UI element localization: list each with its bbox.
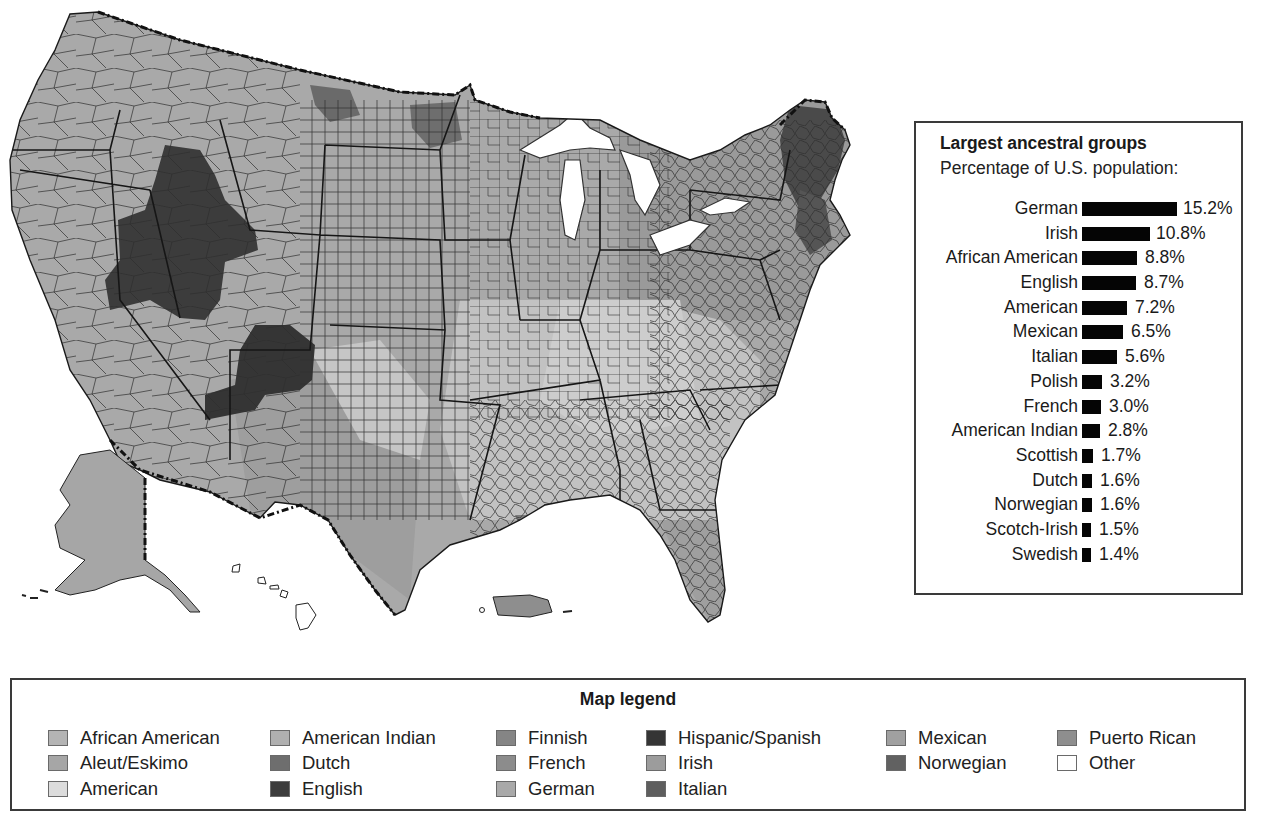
legend-column-1: African AmericanAleut/EskimoAmerican xyxy=(48,725,220,802)
bar-value-label: 15.2% xyxy=(1183,197,1233,219)
bar-category-label: Scotch-Irish xyxy=(986,518,1078,540)
ancestry-choropleth-map xyxy=(0,0,910,665)
bar xyxy=(1082,301,1127,315)
legend-label: Puerto Rican xyxy=(1089,727,1196,749)
legend-item: Irish xyxy=(646,751,821,777)
bar-value-label: 1.4% xyxy=(1099,543,1139,565)
bar-row: German15.2% xyxy=(916,197,1241,222)
bar xyxy=(1082,449,1093,463)
legend-label: French xyxy=(528,752,586,774)
bar xyxy=(1082,424,1100,438)
bar xyxy=(1082,276,1136,290)
bar xyxy=(1082,400,1101,414)
legend-item: African American xyxy=(48,725,220,751)
bar-value-label: 3.2% xyxy=(1110,370,1150,392)
legend-swatch-icon xyxy=(886,730,906,746)
bar-value-label: 1.6% xyxy=(1100,493,1140,515)
bar-row: Swedish1.4% xyxy=(916,543,1241,568)
bar-category-label: Irish xyxy=(1045,222,1078,244)
bar xyxy=(1082,375,1102,389)
legend-column-4: Hispanic/SpanishIrishItalian xyxy=(646,725,821,802)
bar-value-label: 2.8% xyxy=(1108,419,1148,441)
bar xyxy=(1082,474,1092,488)
puerto-rico xyxy=(493,595,552,617)
legend-label: Mexican xyxy=(918,727,987,749)
legend-item: Other xyxy=(1057,751,1196,777)
bar-rows: German15.2%Irish10.8%African American8.8… xyxy=(916,197,1241,567)
legend-item: Hispanic/Spanish xyxy=(646,725,821,751)
bar-row: Polish3.2% xyxy=(916,370,1241,395)
legend-column-5: MexicanNorwegian xyxy=(886,725,1006,776)
legend-swatch-icon xyxy=(48,730,68,746)
legend-swatch-icon xyxy=(886,755,906,771)
legend-label: American xyxy=(80,778,158,800)
bar xyxy=(1082,251,1137,265)
legend-item: Norwegian xyxy=(886,751,1006,777)
bar-row: Scotch-Irish1.5% xyxy=(916,518,1241,543)
legend-label: Aleut/Eskimo xyxy=(80,752,188,774)
legend-column-2: American IndianDutchEnglish xyxy=(270,725,436,802)
legend-item: Puerto Rican xyxy=(1057,725,1196,751)
bar-row: Italian5.6% xyxy=(916,345,1241,370)
bar-category-label: English xyxy=(1021,271,1078,293)
legend-item: English xyxy=(270,776,436,802)
bar xyxy=(1082,498,1092,512)
legend-swatch-icon xyxy=(646,755,666,771)
legend-label: Italian xyxy=(678,778,727,800)
legend-swatch-icon xyxy=(48,781,68,797)
legend-title: Map legend xyxy=(12,689,1244,710)
bar-category-label: Scottish xyxy=(1016,444,1078,466)
legend-item: Italian xyxy=(646,776,821,802)
bar-value-label: 5.6% xyxy=(1125,345,1165,367)
legend-column-6: Puerto RicanOther xyxy=(1057,725,1196,776)
legend-swatch-icon xyxy=(1057,755,1077,771)
bar-value-label: 3.0% xyxy=(1109,395,1149,417)
bar-value-label: 1.5% xyxy=(1099,518,1139,540)
legend-item: German xyxy=(496,776,595,802)
legend-swatch-icon xyxy=(48,755,68,771)
legend-label: Dutch xyxy=(302,752,350,774)
legend-item: French xyxy=(496,751,595,777)
bar-value-label: 10.8% xyxy=(1156,222,1206,244)
legend-item: Finnish xyxy=(496,725,595,751)
bar-value-label: 7.2% xyxy=(1135,296,1175,318)
bar xyxy=(1082,548,1091,562)
bar-row: Irish10.8% xyxy=(916,222,1241,247)
legend-swatch-icon xyxy=(1057,730,1077,746)
legend-label: American Indian xyxy=(302,727,436,749)
bar xyxy=(1082,202,1177,216)
bar-category-label: Italian xyxy=(1031,345,1078,367)
chart-subtitle: Percentage of U.S. population: xyxy=(940,158,1178,179)
legend-label: Other xyxy=(1089,752,1135,774)
largest-ancestral-groups-chart: Largest ancestral groups Percentage of U… xyxy=(914,121,1243,595)
legend-column-3: FinnishFrenchGerman xyxy=(496,725,595,802)
legend-swatch-icon xyxy=(270,730,290,746)
hawaii xyxy=(232,564,316,630)
legend-label: German xyxy=(528,778,595,800)
legend-swatch-icon xyxy=(496,755,516,771)
bar xyxy=(1082,227,1150,241)
legend-swatch-icon xyxy=(496,781,516,797)
bar-category-label: African American xyxy=(946,246,1078,268)
legend-label: Irish xyxy=(678,752,713,774)
bar-value-label: 8.8% xyxy=(1145,246,1185,268)
chart-title: Largest ancestral groups xyxy=(940,133,1147,154)
legend-item: Mexican xyxy=(886,725,1006,751)
bar-row: Norwegian1.6% xyxy=(916,493,1241,518)
bar xyxy=(1082,523,1091,537)
bar-value-label: 6.5% xyxy=(1131,320,1171,342)
legend-item: Aleut/Eskimo xyxy=(48,751,220,777)
bar-category-label: Mexican xyxy=(1013,320,1078,342)
legend-swatch-icon xyxy=(646,730,666,746)
legend-label: Norwegian xyxy=(918,752,1006,774)
legend-item: American xyxy=(48,776,220,802)
bar xyxy=(1082,325,1123,339)
bar-category-label: French xyxy=(1024,395,1078,417)
bar-category-label: American xyxy=(1004,296,1078,318)
bar-row: African American8.8% xyxy=(916,246,1241,271)
bar-row: American7.2% xyxy=(916,296,1241,321)
bar-category-label: German xyxy=(1015,197,1078,219)
legend-swatch-icon xyxy=(270,781,290,797)
bar-category-label: Norwegian xyxy=(994,493,1078,515)
legend-label: Finnish xyxy=(528,727,588,749)
